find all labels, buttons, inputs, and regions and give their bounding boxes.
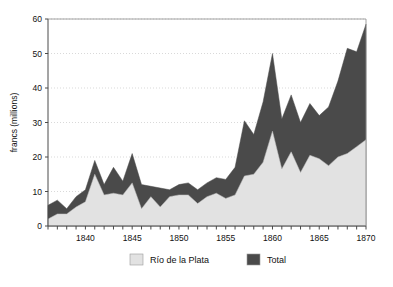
legend-label-rio-de-la-plata: Río de la Plata — [150, 255, 209, 265]
legend-swatch-total — [247, 254, 260, 265]
y-tick-label: 30 — [33, 118, 43, 128]
x-tick-label: 1855 — [216, 233, 235, 243]
legend-swatch-rio-de-la-plata — [130, 254, 143, 265]
y-tick-label: 0 — [37, 221, 42, 231]
area-chart: 0102030405060184018451850185518601865187… — [0, 0, 393, 287]
y-tick-label: 20 — [33, 152, 43, 162]
y-tick-label: 10 — [33, 187, 43, 197]
x-tick-label: 1840 — [76, 233, 95, 243]
x-tick-label: 1845 — [123, 233, 142, 243]
chart-figure: 0102030405060184018451850185518601865187… — [0, 0, 393, 287]
y-tick-label: 50 — [33, 49, 43, 59]
x-tick-label: 1860 — [263, 233, 282, 243]
x-tick-label: 1865 — [310, 233, 329, 243]
x-tick-label: 1870 — [357, 233, 376, 243]
y-tick-label: 60 — [33, 14, 43, 24]
y-tick-label: 40 — [33, 83, 43, 93]
x-tick-label: 1850 — [169, 233, 188, 243]
y-axis-title: francs (millions) — [9, 93, 19, 153]
legend-label-total: Total — [267, 255, 286, 265]
